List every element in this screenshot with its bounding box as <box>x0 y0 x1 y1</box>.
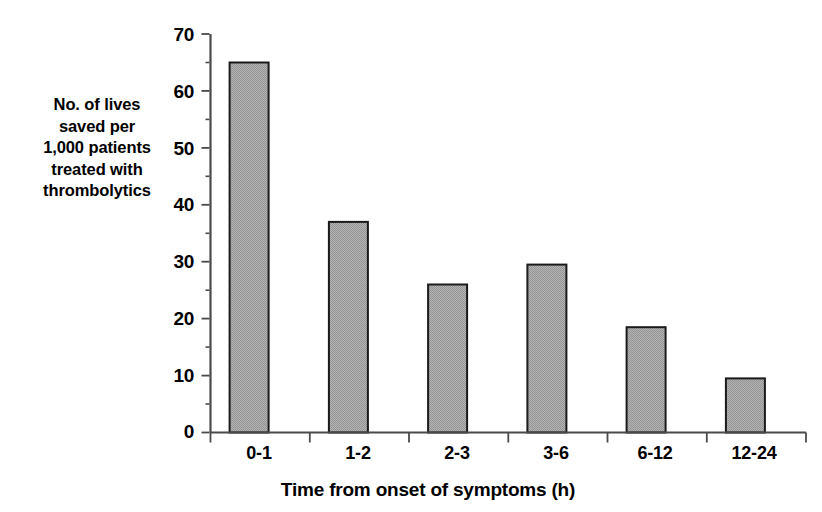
x-axis-tick-label: 12-24 <box>704 444 804 462</box>
x-axis-tick-label: 1-2 <box>308 444 408 462</box>
plot-area <box>0 0 822 512</box>
bars-group <box>230 63 765 433</box>
x-axis-ticks <box>211 433 807 443</box>
x-axis-tick-label: 2-3 <box>407 444 507 462</box>
x-axis-title-text: Time from onset of symptoms (h) <box>247 479 575 501</box>
bar-chart: No. of lives saved per 1,000 patients tr… <box>0 0 822 512</box>
x-axis-tick-label: 3-6 <box>506 444 606 462</box>
bar <box>230 63 269 433</box>
bar <box>428 285 467 433</box>
bar <box>627 327 666 432</box>
y-axis-ticks <box>202 34 210 433</box>
bar <box>527 265 566 433</box>
x-axis-tick-label: 0-1 <box>209 444 309 462</box>
x-axis-tick-label: 6-12 <box>605 444 705 462</box>
bar <box>726 378 765 432</box>
bar <box>329 222 368 433</box>
x-axis-title: Time from onset of symptoms (h) <box>0 479 822 501</box>
